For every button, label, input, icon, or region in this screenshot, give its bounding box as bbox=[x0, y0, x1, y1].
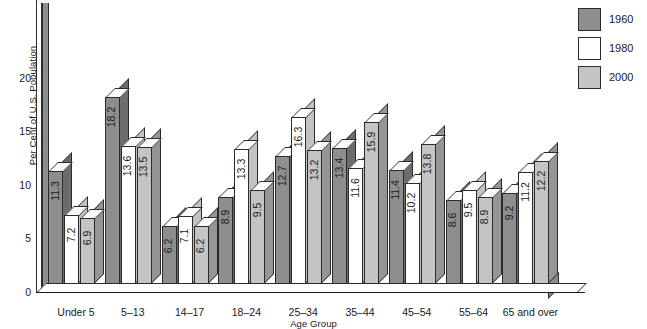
y-tick-label: 10 bbox=[9, 180, 31, 190]
legend-swatch-1980 bbox=[578, 37, 601, 60]
bar-2000-45–54: 13.8 bbox=[421, 135, 445, 292]
chart-floor-slab bbox=[36, 283, 586, 299]
bar-side-face bbox=[321, 131, 331, 284]
bar-2000-Under-5: 6.9 bbox=[80, 209, 104, 292]
bar-value-label: 11.2 bbox=[520, 177, 532, 207]
bar-value-label: 8.9 bbox=[220, 202, 232, 232]
bar-value-label: 13.3 bbox=[236, 154, 248, 184]
x-axis-line bbox=[36, 292, 585, 293]
bar-value-label: 6.9 bbox=[82, 223, 94, 253]
bar-value-label: 6.2 bbox=[195, 231, 207, 261]
y-tick-label: 15 bbox=[9, 126, 31, 136]
bar-side-face bbox=[435, 125, 445, 284]
legend-label-1980: 1980 bbox=[609, 42, 633, 54]
bar-2000-65-and-over: 12.2 bbox=[534, 152, 558, 292]
y-axis-wall-front bbox=[36, 1, 42, 292]
y-tick-label: 0 bbox=[9, 287, 31, 297]
bar-2000-25–34: 13.2 bbox=[307, 141, 331, 292]
bar-value-label: 13.2 bbox=[309, 155, 321, 185]
x-axis-title: Age Group bbox=[214, 318, 414, 329]
bar-value-label: 18.2 bbox=[106, 102, 118, 132]
bar-value-label: 8.9 bbox=[479, 202, 491, 232]
legend-swatch-2000 bbox=[578, 66, 601, 89]
bar-value-label: 15.9 bbox=[366, 127, 378, 157]
bar-value-label: 6.2 bbox=[163, 231, 175, 261]
bar-value-label: 11.3 bbox=[50, 176, 62, 206]
bar-value-label: 13.4 bbox=[334, 153, 346, 183]
bar-2000-35–44: 15.9 bbox=[364, 113, 388, 292]
legend-label-2000: 2000 bbox=[609, 71, 633, 83]
y-axis-wall-top bbox=[36, 0, 49, 3]
legend-label-1960: 1960 bbox=[609, 13, 633, 25]
bar-value-label: 7.1 bbox=[179, 221, 191, 251]
bar-value-label: 11.6 bbox=[350, 173, 362, 203]
bar-value-label: 11.4 bbox=[390, 175, 402, 205]
bar-2000-5–13: 13.5 bbox=[137, 138, 161, 292]
legend-swatch-1960 bbox=[578, 8, 601, 31]
bar-2000-14–17: 6.2 bbox=[194, 217, 218, 292]
x-group-label-65-and-over: 65 and over bbox=[480, 306, 580, 318]
bar-value-label: 12.2 bbox=[536, 166, 548, 196]
bar-side-face bbox=[378, 103, 388, 284]
bar-2000-18–24: 9.5 bbox=[250, 181, 274, 292]
bar-value-label: 13.6 bbox=[122, 151, 134, 181]
bar-value-label: 12.7 bbox=[277, 161, 289, 191]
bar-value-label: 16.3 bbox=[293, 122, 305, 152]
bar-value-label: 7.2 bbox=[66, 220, 78, 250]
y-tick-label: 5 bbox=[9, 233, 31, 243]
bar-value-label: 10.2 bbox=[406, 188, 418, 218]
bar-value-label: 9.2 bbox=[504, 198, 516, 228]
bar-value-label: 13.5 bbox=[138, 152, 150, 182]
bar-2000-55–64: 8.9 bbox=[478, 188, 502, 292]
bar-value-label: 8.6 bbox=[447, 205, 459, 235]
bar-value-label: 9.5 bbox=[252, 195, 264, 225]
y-tick-label: 20 bbox=[9, 73, 31, 83]
bar-value-label: 9.5 bbox=[463, 195, 475, 225]
bar-side-face bbox=[151, 128, 161, 284]
bar-side-face bbox=[548, 142, 558, 284]
bar-value-label: 13.8 bbox=[422, 149, 434, 179]
